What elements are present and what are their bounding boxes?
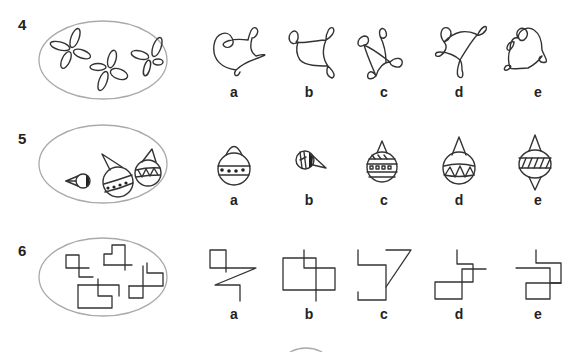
question-5-option-d-label[interactable]: d [449,192,469,208]
question-6-option-b-label[interactable]: b [299,306,319,322]
question-4-option-a-label[interactable]: a [224,84,244,100]
question-5-option-a-label[interactable]: a [224,192,244,208]
next-question-oval-partial [0,0,1,1]
question-4-option-b-label[interactable]: b [299,84,319,100]
question-number-6: 6 [18,242,26,259]
question-4-option-e-label[interactable]: e [528,84,548,100]
question-number-4: 4 [18,16,26,33]
question-6-option-a-label[interactable]: a [224,306,244,322]
question-5-option-c-label[interactable]: c [374,192,394,208]
question-number-5: 5 [18,130,26,147]
question-6-option-e-label[interactable]: e [528,306,548,322]
question-6-option-d-label[interactable]: d [449,306,469,322]
question-4-option-d-label[interactable]: d [449,84,469,100]
question-5-option-b-label[interactable]: b [299,192,319,208]
question-4-option-c-label[interactable]: c [374,84,394,100]
question-5-option-e-label[interactable]: e [528,192,548,208]
question-6-option-c-label[interactable]: c [374,306,394,322]
